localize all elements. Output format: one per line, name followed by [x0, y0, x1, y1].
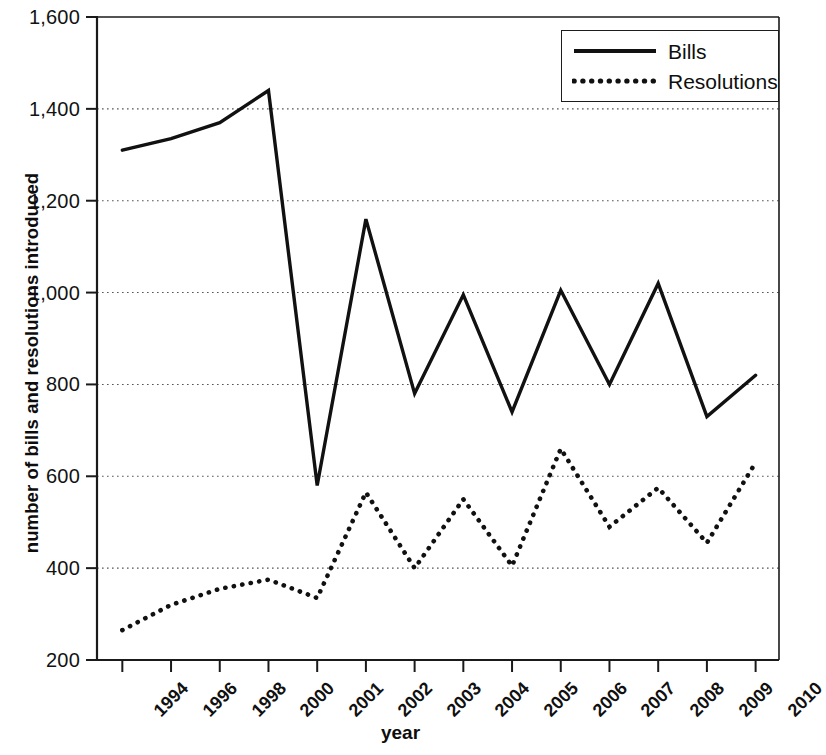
legend-item-resolutions: Resolutions — [572, 66, 770, 96]
y-tick-label: 800 — [46, 373, 80, 396]
y-axis-title: number of bills and resolutions introduc… — [21, 103, 43, 623]
y-tick-label: 600 — [46, 465, 80, 488]
y-tick-label: 1,600 — [29, 6, 80, 29]
legend-swatch-solid-icon — [572, 44, 658, 58]
legend-swatch-dotted-icon — [572, 74, 658, 88]
series-line-bills — [122, 90, 755, 485]
y-tick-label: 200 — [46, 649, 80, 672]
y-tick-label: 400 — [46, 557, 80, 580]
legend-label-bills: Bills — [668, 41, 707, 62]
x-axis-title: year — [0, 722, 801, 744]
x-tick-marks — [122, 660, 755, 672]
legend-item-bills: Bills — [572, 36, 770, 66]
chart-legend: Bills Resolutions — [561, 30, 779, 102]
y-axis-tick-labels: 1,6001,4001,2001,000800600400200 — [0, 0, 92, 755]
legend-label-resolutions: Resolutions — [668, 71, 778, 92]
